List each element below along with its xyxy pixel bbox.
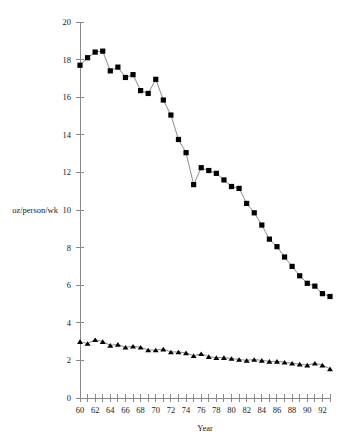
data-point-square — [214, 171, 219, 176]
x-tick-label: 60 — [76, 405, 85, 415]
data-point-square — [93, 49, 98, 54]
y-tick-label: 16 — [63, 92, 72, 102]
data-point-square — [77, 63, 82, 68]
y-tick-label: 10 — [63, 205, 72, 215]
data-point-square — [320, 291, 325, 296]
y-tick-label: 20 — [63, 17, 72, 27]
data-point-square — [146, 91, 151, 96]
data-point-square — [290, 264, 295, 269]
data-point-square — [274, 244, 279, 249]
x-axis-title: Year — [197, 423, 213, 433]
x-tick-label: 78 — [212, 405, 221, 415]
x-tick-label: 72 — [167, 405, 176, 415]
data-point-square — [191, 182, 196, 187]
data-point-square — [100, 49, 105, 54]
data-point-square — [85, 55, 90, 60]
data-point-square — [259, 222, 264, 227]
x-tick-label: 86 — [273, 405, 282, 415]
data-point-square — [138, 88, 143, 93]
data-point-square — [305, 281, 310, 286]
data-point-square — [161, 97, 166, 102]
data-point-square — [252, 210, 257, 215]
data-point-square — [199, 165, 204, 170]
x-tick-label: 64 — [106, 405, 115, 415]
data-point-square — [123, 75, 128, 80]
x-tick-label: 92 — [318, 405, 327, 415]
data-point-square — [221, 177, 226, 182]
chart-background — [0, 0, 349, 442]
y-tick-label: 0 — [67, 393, 71, 403]
data-point-square — [153, 77, 158, 82]
x-tick-label: 70 — [152, 405, 161, 415]
data-point-square — [115, 65, 120, 70]
x-tick-label: 62 — [91, 405, 100, 415]
data-point-square — [297, 273, 302, 278]
data-point-square — [282, 254, 287, 259]
x-tick-label: 88 — [288, 405, 297, 415]
data-point-square — [168, 112, 173, 117]
data-point-square — [327, 294, 332, 299]
y-tick-label: 8 — [67, 243, 71, 253]
y-tick-label: 2 — [67, 355, 71, 365]
x-tick-label: 90 — [303, 405, 312, 415]
data-point-square — [229, 184, 234, 189]
data-point-square — [312, 284, 317, 289]
data-point-square — [236, 186, 241, 191]
chart-container: 02468101214161820 6062646668707274767880… — [0, 0, 349, 442]
y-tick-label: 6 — [67, 280, 71, 290]
y-tick-label: 18 — [63, 55, 72, 65]
x-tick-label: 84 — [258, 405, 267, 415]
y-tick-label: 14 — [63, 130, 72, 140]
y-tick-label: 12 — [63, 167, 72, 177]
x-tick-label: 76 — [197, 405, 206, 415]
data-point-square — [176, 137, 181, 142]
data-point-square — [267, 237, 272, 242]
x-tick-label: 68 — [136, 405, 145, 415]
x-tick-label: 66 — [121, 405, 130, 415]
x-tick-label: 74 — [182, 405, 191, 415]
data-point-square — [108, 68, 113, 73]
x-tick-label: 80 — [227, 405, 236, 415]
x-tick-label: 82 — [242, 405, 251, 415]
y-axis-title: oz/person/wk — [12, 205, 59, 215]
data-point-square — [130, 72, 135, 77]
data-point-square — [244, 201, 249, 206]
data-point-square — [206, 168, 211, 173]
data-point-square — [183, 150, 188, 155]
line-chart: 02468101214161820 6062646668707274767880… — [0, 0, 349, 442]
